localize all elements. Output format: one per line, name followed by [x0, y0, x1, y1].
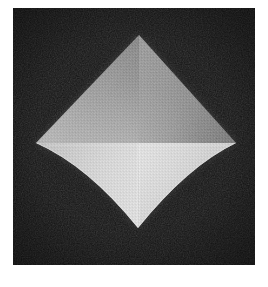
photograph-plate — [13, 8, 255, 265]
image-canvas: Monochrome photograph of a four-faceted … — [0, 0, 268, 287]
kite-shaped-faceted-solid — [13, 8, 255, 265]
